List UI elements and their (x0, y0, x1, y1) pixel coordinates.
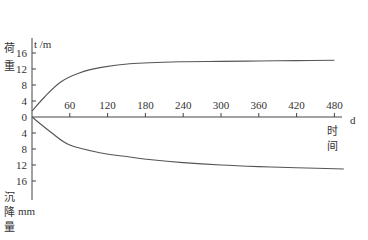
x-tick-label: 360 (251, 99, 268, 111)
y-top-tick-label: 16 (16, 47, 28, 59)
load-settlement-chart: 601201802403003604204800481216481216 荷 重… (0, 0, 368, 240)
x-tick-label: 300 (213, 99, 230, 111)
x-tick-label: 180 (137, 99, 154, 111)
x-tick-label: 240 (175, 99, 192, 111)
y-top-tick-label: 12 (16, 63, 27, 75)
y-top-unit: t /m (34, 38, 52, 50)
y-bottom-label-char-1: 沉 (4, 191, 15, 204)
axes (32, 38, 342, 200)
y-top-label-char-1: 荷 (4, 42, 15, 55)
settlement-curve (32, 117, 344, 169)
y-bottom-label-char-3: 量 (4, 221, 15, 234)
x-tick-label: 420 (288, 99, 305, 111)
y-bottom-tick-label: 12 (16, 159, 27, 171)
y-bottom-tick-label: 16 (16, 175, 28, 187)
y-bottom-tick-label: 4 (22, 127, 28, 139)
axis-titles: 荷 重 t /m 沉 降 量 mm 时 间 d (4, 38, 356, 234)
y-top-tick-label: 4 (22, 95, 28, 107)
y-top-tick-label: 0 (22, 111, 28, 123)
y-bottom-tick-label: 8 (22, 143, 28, 155)
y-top-tick-label: 8 (22, 79, 28, 91)
x-label-char-2: 间 (327, 140, 338, 153)
x-label-char-1: 时 (327, 125, 338, 138)
x-unit: d (350, 114, 356, 126)
x-tick-label: 480 (326, 99, 343, 111)
y-bottom-label-char-2: 降 (4, 205, 15, 219)
y-top-label-char-2: 重 (4, 59, 15, 73)
x-tick-label: 60 (64, 99, 76, 111)
y-bottom-unit: mm (18, 205, 36, 217)
x-tick-label: 120 (99, 99, 116, 111)
